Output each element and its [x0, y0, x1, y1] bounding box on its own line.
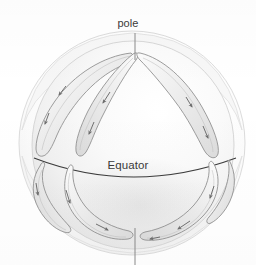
- equator-label: Equator: [0, 159, 256, 171]
- pole-label: pole: [0, 17, 256, 29]
- specular-highlight: [141, 99, 175, 127]
- mantle-convection-figure: [0, 0, 256, 265]
